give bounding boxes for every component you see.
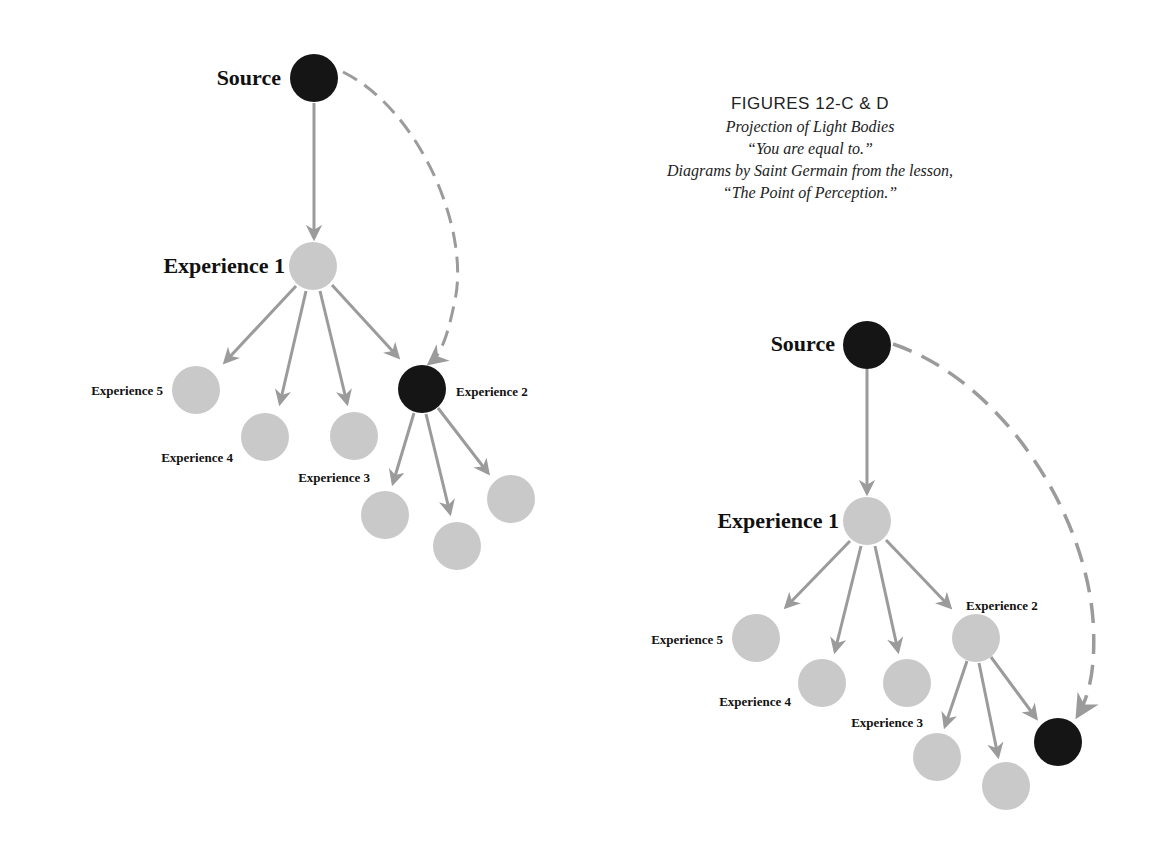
label-source: Source xyxy=(217,65,282,90)
node-exp5 xyxy=(732,614,780,662)
arrow-exp2-child-b xyxy=(979,663,998,756)
node-exp2 xyxy=(398,365,446,413)
node-exp2-child-b xyxy=(433,522,481,570)
node-exp2-child-b xyxy=(982,762,1030,810)
diagrams-canvas: Source Experience 1 Experience 5 Experie… xyxy=(0,0,1159,859)
label-exp1: Experience 1 xyxy=(717,508,839,533)
arrow-exp2-child-a xyxy=(393,413,414,483)
arrow-exp1-to-exp2 xyxy=(886,540,950,607)
node-source xyxy=(290,54,338,102)
node-exp2 xyxy=(952,614,1000,662)
node-exp3 xyxy=(883,659,931,707)
node-exp1 xyxy=(843,497,891,545)
label-exp2: Experience 2 xyxy=(966,598,1038,613)
arrow-exp1-to-exp3 xyxy=(875,546,898,651)
figure-page: FIGURES 12-C & D Projection of Light Bod… xyxy=(0,0,1159,859)
dashed-projection-arrow xyxy=(343,72,458,363)
node-exp1 xyxy=(289,242,337,290)
arrow-exp1-to-exp4 xyxy=(280,291,306,403)
label-exp3: Experience 3 xyxy=(851,715,923,730)
label-exp1: Experience 1 xyxy=(163,253,285,278)
arrow-exp2-child-b xyxy=(426,414,450,513)
arrow-exp1-to-exp2 xyxy=(332,285,398,357)
node-exp2-child-c xyxy=(487,475,535,523)
figure-12c: Source Experience 1 Experience 5 Experie… xyxy=(91,54,535,570)
label-exp3: Experience 3 xyxy=(298,470,370,485)
arrow-exp1-to-exp3 xyxy=(320,291,347,403)
figure-12d: Source Experience 1 Experience 5 Experie… xyxy=(651,321,1094,810)
node-exp2-child-dark xyxy=(1034,718,1082,766)
label-source: Source xyxy=(771,331,836,356)
arrow-exp2-child-c xyxy=(991,657,1036,718)
node-exp2-child-a xyxy=(361,491,409,539)
label-exp5: Experience 5 xyxy=(91,383,163,398)
arrow-exp2-child-a xyxy=(945,661,967,726)
label-exp4: Experience 4 xyxy=(719,694,791,709)
node-exp4 xyxy=(241,413,289,461)
label-exp5: Experience 5 xyxy=(651,632,723,647)
node-exp4 xyxy=(798,659,846,707)
node-source xyxy=(843,321,891,369)
node-exp5 xyxy=(172,366,220,414)
arrow-exp1-to-exp4 xyxy=(835,546,861,651)
label-exp4: Experience 4 xyxy=(161,450,233,465)
arrow-exp2-child-c xyxy=(438,408,488,473)
arrow-exp1-to-exp5 xyxy=(786,541,850,607)
label-exp2: Experience 2 xyxy=(456,384,528,399)
node-exp3 xyxy=(330,412,378,460)
arrow-exp1-to-exp5 xyxy=(225,286,296,362)
node-exp2-child-a xyxy=(913,733,961,781)
